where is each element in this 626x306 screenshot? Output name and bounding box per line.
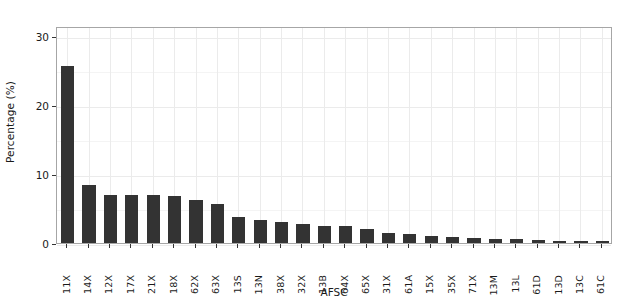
y-axis-title: Percentage (%) — [0, 0, 20, 244]
bar — [147, 195, 160, 243]
y-axis-tick-label: 0 — [42, 238, 49, 249]
x-axis-tick-mark — [259, 244, 260, 248]
x-axis-tick-mark — [387, 244, 388, 248]
x-axis-tick-mark — [601, 244, 602, 248]
bar — [61, 66, 74, 243]
bar — [189, 200, 202, 243]
bar — [510, 239, 523, 243]
bar — [467, 238, 480, 244]
bar — [296, 224, 309, 243]
bar — [232, 217, 245, 243]
bar — [82, 185, 95, 243]
bar — [168, 196, 181, 243]
x-axis-tick-mark — [473, 244, 474, 248]
plot-panel — [56, 27, 612, 244]
x-axis-tick-mark — [537, 244, 538, 248]
bar — [425, 236, 438, 243]
bar — [574, 241, 587, 243]
y-axis-tick-label: 10 — [36, 169, 49, 180]
x-axis-tick-mark — [408, 244, 409, 248]
bar — [446, 237, 459, 243]
x-axis-tick-mark — [366, 244, 367, 248]
bars-layer — [57, 28, 611, 243]
y-axis-tick-label: 30 — [36, 32, 49, 43]
x-axis-tick-mark — [130, 244, 131, 248]
x-axis-tick-mark — [237, 244, 238, 248]
x-axis-tick-mark — [344, 244, 345, 248]
y-axis-title-label: Percentage (%) — [4, 81, 16, 163]
bar — [318, 226, 331, 243]
x-axis-title: AFSC — [56, 286, 612, 298]
x-axis-tick-mark — [280, 244, 281, 248]
x-axis-tick-mark — [558, 244, 559, 248]
bar — [211, 204, 224, 243]
bar — [254, 220, 267, 243]
x-axis-tick-mark — [515, 244, 516, 248]
x-axis-tick-mark — [579, 244, 580, 248]
bar — [553, 241, 566, 243]
x-axis-tick-mark — [152, 244, 153, 248]
x-axis-tick-mark — [88, 244, 89, 248]
x-axis-tick-mark — [216, 244, 217, 248]
x-axis-tick-mark — [173, 244, 174, 248]
y-axis: 0102030 — [20, 0, 56, 306]
x-axis-tick-mark — [323, 244, 324, 248]
bar — [532, 240, 545, 243]
bar — [489, 239, 502, 243]
bar — [339, 226, 352, 243]
x-axis-tick-mark — [109, 244, 110, 248]
bar — [403, 234, 416, 243]
x-axis-tick-mark — [451, 244, 452, 248]
bar — [125, 195, 138, 243]
x-axis-tick-mark — [66, 244, 67, 248]
bar — [104, 195, 117, 243]
x-axis-tick-mark — [301, 244, 302, 248]
x-axis-tick-mark — [195, 244, 196, 248]
y-axis-tick-label: 20 — [36, 100, 49, 111]
x-axis-tick-mark — [430, 244, 431, 248]
bar-chart: Percentage (%) 0102030 11X14X12X17X21X18… — [0, 0, 626, 306]
bar — [360, 229, 373, 243]
x-axis-tick-mark — [494, 244, 495, 248]
bar — [596, 241, 609, 243]
bar — [275, 222, 288, 243]
bar — [382, 233, 395, 243]
